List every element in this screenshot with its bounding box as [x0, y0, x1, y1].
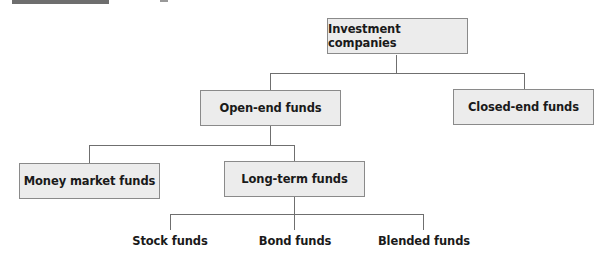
node-label: Open-end funds [219, 101, 321, 115]
leaf-blended-funds: Blended funds [378, 234, 470, 248]
leaf-stock-funds: Stock funds [132, 234, 208, 248]
node-label: Money market funds [24, 174, 156, 188]
node-open-end-funds: Open-end funds [200, 90, 341, 126]
node-label: Long-term funds [241, 172, 347, 186]
node-closed-end-funds: Closed-end funds [453, 89, 594, 125]
node-long-term-funds: Long-term funds [224, 161, 365, 197]
leaf-bond-funds: Bond funds [259, 234, 332, 248]
node-label: Investment companies [328, 22, 467, 50]
connector-lines [0, 0, 609, 258]
node-label: Closed-end funds [468, 100, 579, 114]
node-money-market-funds: Money market funds [19, 163, 160, 199]
node-investment-companies: Investment companies [327, 18, 468, 54]
